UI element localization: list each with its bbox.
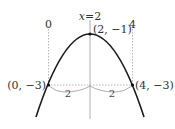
axis-label: x=2	[79, 10, 101, 23]
right-point	[131, 83, 134, 86]
left-point-label: (0, −3)	[7, 79, 46, 92]
left-point	[47, 83, 50, 86]
tick-label-0: 0	[45, 18, 52, 31]
diagram-canvas: x=2 0 4 (2, −1) (0, −3) (4, −3) 2 2	[0, 0, 175, 129]
right-point-label: (4, −3)	[135, 79, 174, 92]
vertex-label: (2, −1)	[93, 23, 132, 36]
left-distance-label: 2	[65, 88, 71, 99]
parabola-diagram: x=2 0 4 (2, −1) (0, −3) (4, −3) 2 2	[0, 0, 175, 129]
right-distance-label: 2	[109, 88, 115, 99]
vertex-point	[88, 32, 91, 35]
